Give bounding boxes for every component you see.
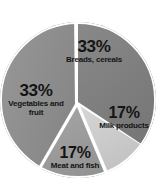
pie-chart: 33% Breads, cereals 33% Vegetables and f… bbox=[0, 0, 160, 196]
pie-chart-canvas bbox=[0, 0, 160, 196]
